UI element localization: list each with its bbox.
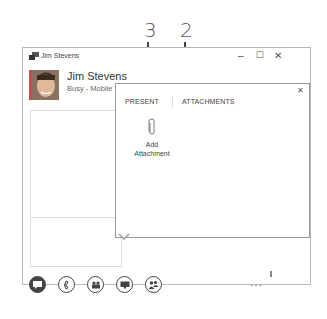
avatar-photo [32, 70, 59, 100]
add-attachment-label-1: Add [132, 140, 172, 149]
message-input-divider [31, 217, 121, 218]
participants-button[interactable] [145, 276, 162, 293]
contact-status: Busy - Mobile [67, 84, 112, 93]
monitor-icon [120, 281, 130, 289]
paperclip-icon [147, 118, 157, 136]
chat-bubble-icon [33, 281, 42, 289]
lync-app-icon [29, 52, 39, 61]
maximize-button[interactable]: ☐ [256, 50, 264, 60]
tab-present[interactable]: PRESENT [125, 98, 159, 105]
video-camera-icon [91, 281, 101, 289]
flyout-close-button[interactable]: ✕ [297, 86, 304, 95]
window-title: Jim Stevens [41, 52, 79, 59]
title-bar: Jim Stevens – ☐ ✕ [23, 48, 310, 68]
flyout-pointer-fill [119, 233, 129, 238]
minimize-button[interactable]: – [238, 50, 244, 61]
close-button[interactable]: ✕ [274, 50, 282, 61]
splitter-handle[interactable] [270, 271, 272, 277]
im-button[interactable] [29, 276, 46, 293]
video-button[interactable] [87, 276, 104, 293]
tab-attachments[interactable]: ATTACHMENTS [182, 98, 235, 105]
add-attachment-label-2: Attachment [132, 149, 172, 158]
people-icon [148, 280, 159, 289]
callout-2: 2 [180, 18, 193, 42]
more-options-button[interactable]: ··· [250, 280, 263, 291]
add-attachment-button[interactable]: Add Attachment [132, 118, 172, 158]
call-button[interactable] [58, 276, 75, 293]
present-button[interactable] [116, 276, 133, 293]
tab-separator [172, 96, 173, 108]
phone-icon [63, 280, 71, 290]
contact-name: Jim Stevens [67, 70, 127, 82]
conversation-area [30, 110, 122, 267]
avatar[interactable] [29, 70, 59, 100]
present-flyout: ✕ PRESENT ATTACHMENTS Add Attachment [115, 83, 310, 238]
callout-3: 3 [144, 18, 157, 42]
